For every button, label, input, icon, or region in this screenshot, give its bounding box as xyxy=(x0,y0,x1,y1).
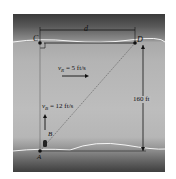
distance-label: 160 ft xyxy=(132,96,151,103)
diagram-lines xyxy=(0,0,176,179)
width-label: d xyxy=(84,25,88,33)
point-c-label: C xyxy=(33,35,38,43)
point-c-dot xyxy=(38,41,42,45)
river-velocity-label: vR = 5 ft/s xyxy=(58,65,86,73)
boat-icon xyxy=(43,140,47,147)
boat-velocity-label: vB = 12 ft/s xyxy=(42,103,73,111)
ad-path xyxy=(40,43,135,151)
point-a-label: A xyxy=(37,154,41,161)
point-b-label: B xyxy=(48,131,52,138)
point-d-label: D xyxy=(137,36,143,44)
